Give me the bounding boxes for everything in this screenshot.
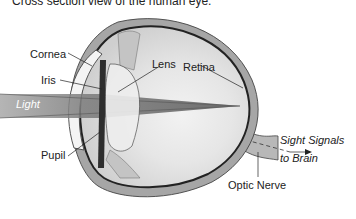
label-to-brain: to Brain: [280, 153, 318, 164]
label-iris: Iris: [41, 75, 56, 86]
eye-cross-section-diagram: [0, 0, 356, 219]
label-optic-nerve: Optic Nerve: [228, 180, 286, 191]
label-pupil: Pupil: [41, 150, 65, 161]
label-sight-signals: Sight Signals: [280, 135, 344, 146]
label-light: Light: [16, 99, 40, 110]
label-retina: Retina: [183, 62, 215, 73]
label-lens: Lens: [152, 59, 176, 70]
label-cornea: Cornea: [30, 49, 66, 60]
